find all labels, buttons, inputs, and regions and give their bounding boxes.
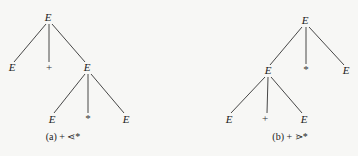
tree-caption: (b) + ⋗* xyxy=(272,131,307,143)
tree-edge xyxy=(231,77,265,113)
tree-edge xyxy=(309,27,344,65)
tree-caption: (a) + ⋖* xyxy=(46,131,81,143)
tree-edge xyxy=(54,74,85,113)
tree-edge xyxy=(52,24,85,62)
tree-edge xyxy=(271,77,302,113)
parse-tree-b: EE*EE+E(b) + ⋗* xyxy=(225,14,350,143)
nonterminal-node: E xyxy=(342,64,350,76)
tree-edge xyxy=(14,24,46,62)
tree-edge xyxy=(270,27,302,65)
nonterminal-node: E xyxy=(301,14,309,26)
nonterminal-node: E xyxy=(300,113,308,125)
operator-node: * xyxy=(303,63,309,75)
operator-node: + xyxy=(46,61,52,73)
operator-node: * xyxy=(85,112,91,124)
nonterminal-node: E xyxy=(48,113,56,125)
tree-edge xyxy=(267,77,268,113)
nonterminal-node: E xyxy=(8,61,16,73)
nonterminal-node: E xyxy=(264,64,272,76)
operator-node: + xyxy=(262,112,268,124)
nonterminal-node: E xyxy=(83,61,91,73)
nonterminal-node: E xyxy=(122,113,130,125)
nonterminal-node: E xyxy=(44,11,52,23)
parse-tree-diagram: EE+EE*E(a) + ⋖* EE*EE+E(b) + ⋗* xyxy=(0,0,358,156)
parse-tree-a: EE+EE*E(a) + ⋖* xyxy=(8,11,130,143)
nonterminal-node: E xyxy=(225,113,233,125)
tree-edge xyxy=(91,74,124,113)
